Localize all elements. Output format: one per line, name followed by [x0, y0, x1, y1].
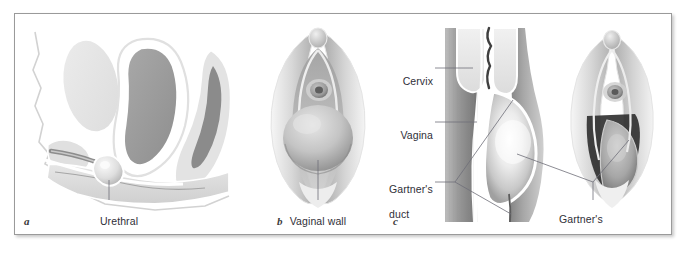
label-urethral-diverticulum: Urethral diverticulum: [63, 202, 175, 235]
label-gartners-duct-line1: Gartner's: [389, 183, 437, 196]
panel-letter-b: b: [277, 215, 283, 227]
gartners-duct-shape: [509, 194, 510, 222]
label-cervix-line1: Cervix: [389, 75, 433, 88]
clitoris-shape: [309, 28, 327, 48]
figure-container: Urethral diverticulum a: [0, 0, 691, 254]
panel-c: Cervix Vagina Gartner's duct Gartner's d…: [389, 14, 672, 234]
figure-plate: Urethral diverticulum a: [14, 13, 672, 235]
label-gartners-duct-cyst-line1: Gartner's: [559, 213, 629, 226]
label-vaginal-wall-inclusion-cyst: Vaginal wall inclusion cyst: [255, 202, 381, 235]
label-gartners-duct-cyst: Gartner's duct cyst: [559, 200, 629, 235]
urethral-meatus-shape-2: [603, 82, 627, 102]
clitoris-shape-2: [604, 31, 621, 50]
panel-a: Urethral diverticulum a: [15, 14, 247, 234]
panel-b: Vaginal wall inclusion cyst b: [247, 14, 389, 234]
urethral-meatus-shape: [306, 79, 332, 101]
label-urethral-diverticulum-line1: Urethral: [63, 215, 175, 228]
label-vaginal-wall-inclusion-cyst-line1: Vaginal wall: [255, 215, 381, 228]
panel-letter-c: c: [393, 215, 398, 227]
panel-letter-a: a: [24, 215, 30, 227]
vaginal-canal-coronal: [445, 28, 544, 222]
introitus-illustration: [571, 31, 654, 209]
label-cervix: Cervix: [389, 62, 433, 100]
label-vagina-line1: Vagina: [389, 129, 433, 142]
label-vagina: Vagina: [389, 116, 433, 154]
